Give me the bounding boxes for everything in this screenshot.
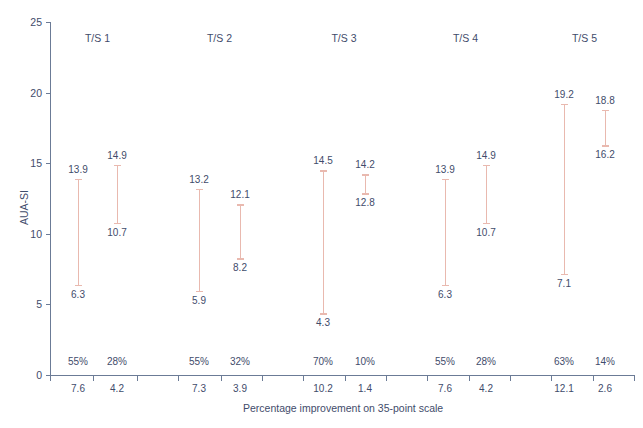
x-axis-tick bbox=[593, 376, 594, 381]
y-axis-title: AUA-SI bbox=[18, 190, 30, 225]
range-bar bbox=[445, 179, 446, 286]
range-bar-cap-top bbox=[602, 110, 609, 111]
range-bottom-value: 7.1 bbox=[542, 279, 586, 289]
range-top-value: 13.9 bbox=[423, 165, 467, 175]
range-top-value: 14.2 bbox=[343, 160, 387, 170]
points-improvement-label: 7.3 bbox=[177, 384, 221, 394]
points-improvement-label: 4.2 bbox=[464, 384, 508, 394]
y-axis-tick bbox=[46, 304, 50, 305]
y-axis bbox=[50, 22, 51, 376]
range-bar-cap-bottom bbox=[320, 313, 327, 314]
range-bar-cap-bottom bbox=[483, 223, 490, 224]
y-axis-tick-label: 25 bbox=[18, 17, 42, 28]
range-bar bbox=[78, 179, 79, 286]
range-bar-cap-top bbox=[320, 170, 327, 171]
range-bar-cap-bottom bbox=[561, 274, 568, 275]
range-bar-cap-top bbox=[196, 189, 203, 190]
x-axis-title: Percentage improvement on 35-point scale bbox=[243, 402, 443, 414]
percent-improvement-label: 28% bbox=[95, 357, 139, 367]
group-label-ts3: T/S 3 bbox=[314, 32, 374, 44]
range-bar-cap-top bbox=[483, 165, 490, 166]
y-axis-tick bbox=[46, 234, 50, 235]
percent-improvement-label: 14% bbox=[583, 357, 627, 367]
points-improvement-label: 4.2 bbox=[95, 384, 139, 394]
chart-canvas: AUA-SI Percentage improvement on 35-poin… bbox=[0, 0, 643, 428]
range-bar bbox=[117, 165, 118, 224]
range-bar-cap-bottom bbox=[75, 285, 82, 286]
range-bar bbox=[240, 204, 241, 259]
points-improvement-label: 12.1 bbox=[542, 384, 586, 394]
x-axis-tick bbox=[137, 376, 138, 381]
points-improvement-label: 7.6 bbox=[56, 384, 100, 394]
range-bottom-value: 16.2 bbox=[583, 150, 627, 160]
range-bar bbox=[564, 104, 565, 275]
range-bar-cap-bottom bbox=[442, 285, 449, 286]
y-axis-tick-label: 20 bbox=[18, 88, 42, 99]
range-bottom-value: 6.3 bbox=[423, 290, 467, 300]
x-axis-tick bbox=[50, 376, 51, 381]
range-bar-cap-top bbox=[442, 179, 449, 180]
points-improvement-label: 7.6 bbox=[423, 384, 467, 394]
group-label-ts4: T/S 4 bbox=[436, 32, 496, 44]
range-top-value: 14.9 bbox=[95, 151, 139, 161]
y-axis-tick-label: 10 bbox=[18, 229, 42, 240]
range-top-value: 13.2 bbox=[177, 175, 221, 185]
percent-improvement-label: 70% bbox=[301, 357, 345, 367]
x-axis-tick bbox=[221, 376, 222, 381]
x-axis-tick bbox=[551, 376, 552, 381]
points-improvement-label: 10.2 bbox=[301, 384, 345, 394]
y-axis-tick-label: 15 bbox=[18, 158, 42, 169]
percent-improvement-label: 10% bbox=[343, 357, 387, 367]
points-improvement-label: 2.6 bbox=[583, 384, 627, 394]
range-bar-cap-top bbox=[75, 179, 82, 180]
x-axis-tick bbox=[303, 376, 304, 381]
range-bar-cap-top bbox=[561, 104, 568, 105]
y-axis-tick bbox=[46, 22, 50, 23]
range-bottom-value: 10.7 bbox=[95, 228, 139, 238]
range-top-value: 18.8 bbox=[583, 96, 627, 106]
range-bar-cap-top bbox=[362, 174, 369, 175]
y-axis-tick-label: 0 bbox=[18, 370, 42, 381]
range-top-value: 14.5 bbox=[301, 156, 345, 166]
x-axis-tick bbox=[178, 376, 179, 381]
percent-improvement-label: 55% bbox=[423, 357, 467, 367]
range-bar bbox=[323, 170, 324, 314]
range-bar-cap-top bbox=[237, 204, 244, 205]
range-bar bbox=[486, 165, 487, 224]
range-top-value: 13.9 bbox=[56, 165, 100, 175]
range-bottom-value: 4.3 bbox=[301, 318, 345, 328]
points-improvement-label: 3.9 bbox=[218, 384, 262, 394]
group-label-ts2: T/S 2 bbox=[190, 32, 250, 44]
percent-improvement-label: 55% bbox=[56, 357, 100, 367]
y-axis-tick-label: 5 bbox=[18, 299, 42, 310]
x-axis-tick bbox=[469, 376, 470, 381]
x-axis-tick bbox=[262, 376, 263, 381]
points-improvement-label: 1.4 bbox=[343, 384, 387, 394]
y-axis-tick bbox=[46, 93, 50, 94]
range-bottom-value: 5.9 bbox=[177, 296, 221, 306]
percent-improvement-label: 63% bbox=[542, 357, 586, 367]
range-bar bbox=[199, 189, 200, 292]
range-bottom-value: 6.3 bbox=[56, 290, 100, 300]
group-label-ts5: T/S 5 bbox=[555, 32, 615, 44]
range-bar bbox=[365, 174, 366, 194]
range-bottom-value: 10.7 bbox=[464, 228, 508, 238]
range-top-value: 12.1 bbox=[218, 190, 262, 200]
range-bar-cap-bottom bbox=[196, 291, 203, 292]
range-top-value: 19.2 bbox=[542, 90, 586, 100]
range-bar-cap-top bbox=[114, 165, 121, 166]
x-axis-tick bbox=[634, 376, 635, 381]
x-axis-tick bbox=[93, 376, 94, 381]
range-bar-cap-bottom bbox=[362, 193, 369, 194]
range-bar-cap-bottom bbox=[114, 223, 121, 224]
percent-improvement-label: 55% bbox=[177, 357, 221, 367]
range-bar-cap-bottom bbox=[602, 145, 609, 146]
range-bar bbox=[605, 110, 606, 147]
range-bottom-value: 12.8 bbox=[343, 198, 387, 208]
range-bottom-value: 8.2 bbox=[218, 263, 262, 273]
x-axis-tick bbox=[386, 376, 387, 381]
percent-improvement-label: 32% bbox=[218, 357, 262, 367]
range-bar-cap-bottom bbox=[237, 258, 244, 259]
x-axis-tick bbox=[427, 376, 428, 381]
y-axis-tick bbox=[46, 163, 50, 164]
